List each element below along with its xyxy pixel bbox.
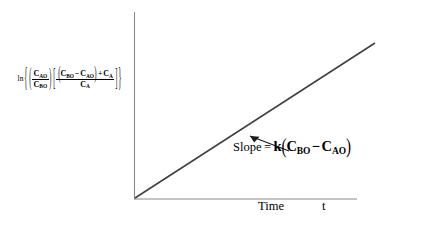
c-ao-symbol: CAO: [322, 138, 346, 154]
c-bo-symbol: CBO: [34, 80, 48, 89]
plot-area: [0, 0, 445, 237]
c-ao-symbol: CAO: [80, 69, 94, 78]
fraction-denominator: CBO: [32, 80, 49, 89]
ln-operator: ln: [18, 75, 24, 83]
minus-sign: −: [312, 138, 320, 154]
inner-paren-close: ): [94, 64, 96, 83]
paren-open: (: [282, 135, 287, 158]
c-a-symbol: CA: [80, 80, 90, 89]
c-bo-symbol: CBO: [286, 138, 310, 154]
paren-close: ): [346, 135, 351, 158]
data-line: [135, 43, 375, 198]
figure-canvas: ln { ( CAO CBO ) [ (CBO−CAO)+CA CA: [0, 0, 445, 237]
bracket-open: [: [53, 67, 55, 92]
fraction-numerator: CAO: [32, 69, 49, 78]
c-ao-symbol: CAO: [33, 69, 47, 78]
fraction-denominator: CA: [79, 80, 92, 89]
driving-force-fraction: (CBO−CAO)+CA CA: [56, 69, 115, 89]
equals-sign: =: [264, 140, 271, 155]
slope-label: Slope: [233, 140, 261, 155]
outer-brace-open: {: [25, 66, 28, 92]
inner-paren-open: (: [58, 64, 60, 83]
rate-constant-k: k: [274, 138, 282, 154]
x-axis-variable: t: [322, 199, 325, 214]
concentration-ratio-fraction: CAO CBO: [32, 69, 49, 89]
c-bo-symbol: CBO: [60, 69, 74, 78]
plus-sign: +: [98, 69, 103, 78]
minus-sign: −: [75, 69, 80, 78]
paren-open: (: [29, 67, 31, 92]
paren-close: ): [50, 67, 52, 92]
slope-expression: k(CBO−CAO): [274, 138, 351, 155]
c-a-symbol: CA: [103, 69, 113, 78]
y-axis-formula: ln { ( CAO CBO ) [ (CBO−CAO)+CA CA: [18, 69, 123, 89]
x-axis-label: Time: [258, 199, 284, 214]
outer-brace-close: }: [119, 66, 122, 92]
fraction-numerator: (CBO−CAO)+CA: [56, 69, 115, 78]
y-axis-label: ln { ( CAO CBO ) [ (CBO−CAO)+CA CA: [8, 58, 132, 100]
slope-annotation: Slope = k(CBO−CAO): [233, 138, 351, 155]
bracket-close: ]: [115, 67, 117, 92]
